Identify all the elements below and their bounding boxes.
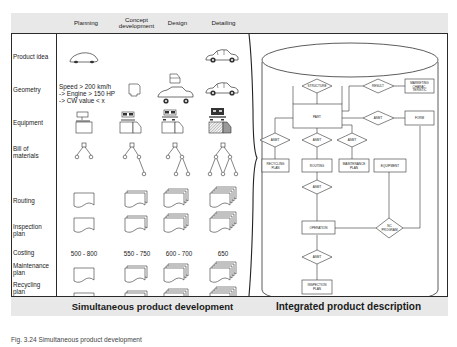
nc-program-label-2: PROGRAM [382, 228, 398, 232]
asmt-inspection-label: ASMT [313, 255, 322, 259]
footer-right-label: Integrated product description [276, 301, 421, 312]
footer-left-label: Simultaneous product development [72, 301, 234, 312]
asmt-recycling-label: ASMT [271, 138, 280, 142]
maintenance-plan-label-2: PLAN [350, 166, 358, 170]
footer-integrated-description: Integrated product description [249, 296, 448, 316]
inspection-plan-label-2: PLAN [313, 287, 321, 291]
asmt-form-label: ASMT [374, 116, 383, 120]
part-label: PART [313, 115, 321, 119]
footer-corner-cell [11, 296, 57, 316]
marketing-label-3: TERISTIC [412, 88, 427, 92]
asmt-operation-label: ASMT [313, 185, 322, 189]
figure-caption: Fig. 3.24 Simultaneous product developme… [11, 336, 142, 343]
operation-label: OPERATION [310, 226, 328, 230]
recycling-plan-label-2: PLAN [271, 166, 279, 170]
asmt-maintenance-label: ASMT [348, 138, 357, 142]
equipment-label: EQUIPMENT [381, 164, 400, 168]
asmt-routing-label: ASMT [313, 138, 322, 142]
result-label: RESULT [372, 84, 384, 88]
er-model-diagram: STRUCTURE PART RESULT MARKETING CHARAC- … [0, 0, 457, 347]
footer-simultaneous-development: Simultaneous product development [56, 296, 250, 316]
form-label: FORM [415, 116, 425, 120]
routing-label: ROUTING [310, 164, 325, 168]
structure-label: STRUCTURE [307, 84, 326, 88]
